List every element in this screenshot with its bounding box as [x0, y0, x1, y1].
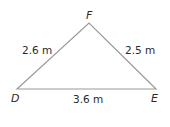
- triangle-def: [17, 23, 156, 89]
- vertex-label-d: D: [11, 92, 19, 105]
- vertex-label-f: F: [86, 9, 93, 22]
- side-label-df: 2.6 m: [22, 44, 52, 56]
- triangle-diagram: F D E 2.6 m 2.5 m 3.6 m: [0, 0, 170, 127]
- side-label-ef: 2.5 m: [125, 44, 155, 56]
- vertex-label-e: E: [151, 92, 158, 105]
- side-label-de: 3.6 m: [73, 93, 103, 105]
